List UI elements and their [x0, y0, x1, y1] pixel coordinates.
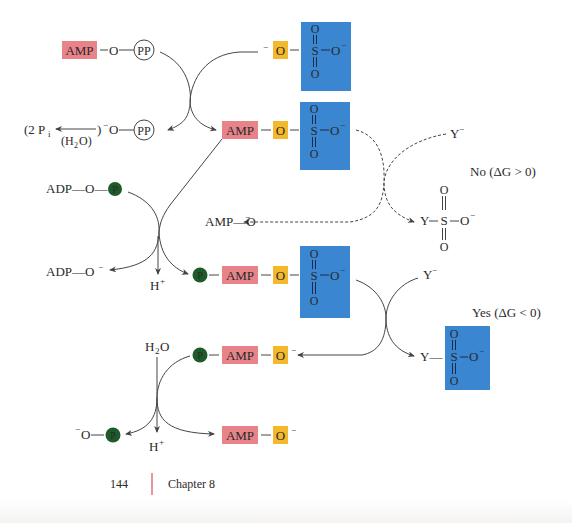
pp-label: PP: [137, 44, 151, 58]
o-label: O: [109, 43, 118, 58]
svg-text:P: P: [197, 350, 203, 361]
svg-text:−: −: [103, 120, 108, 130]
svg-text:O: O: [330, 268, 339, 283]
svg-text:O: O: [276, 428, 285, 443]
svg-text:AMP: AMP: [226, 348, 254, 363]
svg-text:ADP—O—: ADP—O—: [46, 181, 108, 196]
svg-text:S: S: [310, 268, 317, 283]
page-number: 144: [110, 477, 128, 491]
svg-text:2: 2: [74, 141, 78, 150]
svg-text:O: O: [276, 348, 285, 363]
svg-text:O: O: [450, 327, 459, 341]
svg-text:O: O: [276, 268, 285, 283]
svg-text:Y: Y: [420, 213, 430, 228]
svg-text:−: −: [470, 210, 475, 220]
svg-text:O: O: [450, 374, 459, 388]
svg-text:−: −: [291, 345, 296, 355]
svg-text:O: O: [81, 427, 90, 442]
svg-text:AMP: AMP: [226, 428, 254, 443]
yes-delta-g-label: Yes (ΔG < 0): [472, 305, 541, 320]
chapter-label: Chapter 8: [168, 477, 215, 491]
amp-sulfate-free-product: AMP O −: [222, 425, 296, 444]
svg-text:O: O: [440, 183, 449, 197]
svg-text:−: −: [245, 212, 250, 222]
svg-text:O: O: [331, 43, 340, 58]
svg-text:S: S: [311, 43, 318, 58]
adp-release-arrow: [110, 192, 159, 270]
pap-product: P AMP O −: [193, 345, 297, 364]
phosphate-product: − O P: [75, 424, 121, 443]
svg-text:P: P: [110, 430, 116, 441]
yes-branch-y-arrow: [386, 278, 418, 356]
amp-release-arrow: [157, 398, 214, 434]
svg-text:−: −: [340, 265, 345, 275]
svg-text:O: O: [276, 123, 285, 138]
sulfate-reactant: − O O S O O −: [263, 22, 351, 91]
svg-text:O: O: [460, 213, 469, 228]
svg-text:O: O: [311, 22, 320, 36]
y-sulfate-product-yes: Y— O S O O −: [420, 326, 490, 390]
svg-text:−: −: [341, 40, 346, 50]
svg-text:O: O: [469, 349, 478, 364]
svg-text:O: O: [330, 123, 339, 138]
svg-text:(2 P: (2 P: [24, 122, 45, 137]
svg-text:AMP: AMP: [226, 268, 254, 283]
sulfate-box: [301, 22, 351, 91]
svg-text:O: O: [310, 247, 319, 261]
water-label: H: [145, 339, 154, 354]
sulfate-box: [300, 102, 350, 170]
adp-product-label: ADP—O: [46, 264, 94, 279]
svg-text:(H: (H: [61, 134, 74, 148]
svg-text:−: −: [75, 424, 80, 434]
page-edge-shadow: [0, 500, 572, 523]
reaction-scheme: AMP O PP − O O S O O − (2 P i (H 2 O): [0, 0, 572, 523]
phosphate-release-arrow: [126, 356, 190, 434]
svg-text:): ): [97, 122, 101, 137]
proton-label: H: [149, 439, 158, 454]
svg-text:P: P: [197, 270, 203, 281]
amp-label: AMP: [65, 43, 93, 58]
svg-text:−: −: [479, 346, 484, 356]
no-branch-y-arrow: [384, 134, 446, 222]
svg-text:2: 2: [155, 346, 160, 356]
svg-text:P: P: [112, 184, 118, 195]
svg-text:+: +: [159, 437, 164, 447]
svg-text:+: +: [160, 276, 165, 286]
sulfate-activation-diagram: AMP O PP − O O S O O − (2 P i (H 2 O): [0, 0, 572, 523]
svg-text:−: −: [98, 262, 103, 272]
svg-text:i: i: [48, 129, 51, 139]
atp-reactant: AMP O PP: [62, 40, 154, 60]
svg-text:O: O: [109, 122, 118, 137]
aps-intermediate: AMP O O S O O −: [222, 102, 350, 170]
svg-text:O: O: [160, 339, 169, 354]
o-label: O: [276, 43, 285, 58]
sulfate-box: [300, 246, 350, 318]
no-delta-g-label: No (ΔG > 0): [470, 164, 536, 179]
svg-text:S: S: [450, 349, 457, 364]
svg-text:PP: PP: [137, 124, 151, 138]
svg-text:O: O: [440, 240, 449, 254]
paps-formation-arrow: [159, 232, 188, 274]
svg-text:−: −: [340, 120, 345, 130]
svg-text:−: −: [432, 265, 437, 275]
proton-label: H: [150, 278, 159, 293]
svg-text:O: O: [310, 102, 319, 116]
svg-text:O: O: [311, 67, 320, 81]
pyrophosphate-product: (2 P i (H 2 O) ) − O PP: [24, 120, 154, 150]
aps-formation-arrow: [190, 52, 258, 130]
svg-text:S: S: [440, 213, 447, 228]
svg-text:−: −: [459, 124, 464, 134]
svg-text:Y—: Y—: [420, 349, 443, 364]
svg-text:O: O: [310, 147, 319, 161]
pp-release-arrow: [160, 52, 190, 130]
o-charge: −: [263, 42, 268, 52]
svg-text:−: −: [291, 425, 296, 435]
svg-text:AMP: AMP: [226, 123, 254, 138]
y-sulfate-product-no: Y O S O O −: [420, 183, 475, 254]
svg-text:S: S: [310, 123, 317, 138]
adp-phosphate-reactant: ADP—O— P: [46, 181, 122, 196]
svg-text:O: O: [310, 294, 319, 308]
paps-intermediate: P AMP O O S O O −: [193, 246, 351, 318]
svg-text:O): O): [79, 134, 92, 148]
page-footer: 144 Chapter 8: [110, 473, 215, 495]
